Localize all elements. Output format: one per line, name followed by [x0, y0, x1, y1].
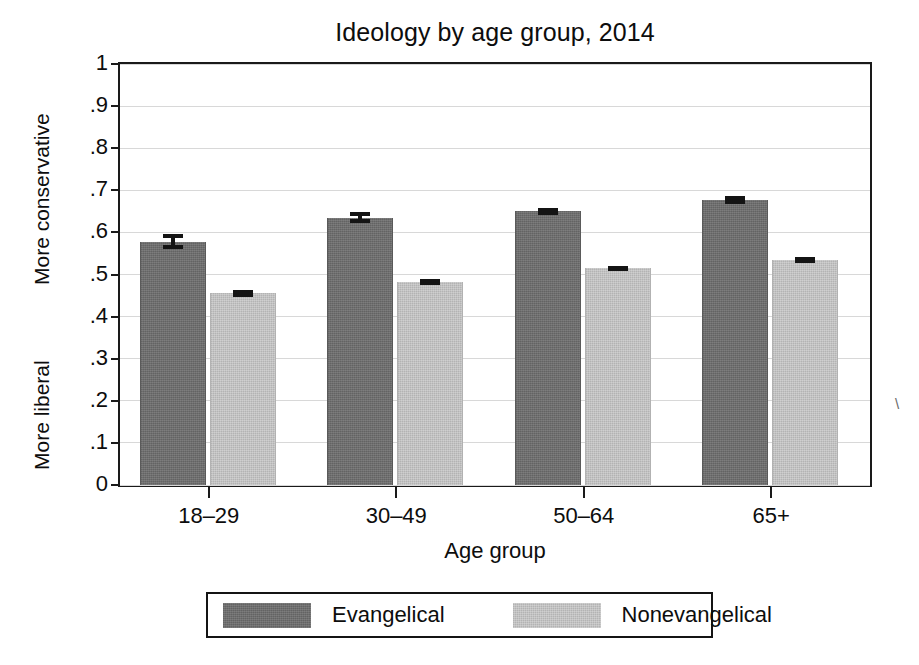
- y-axis-tick: [111, 400, 120, 402]
- legend-entry-nonevangelical[interactable]: Nonevangelical: [513, 594, 772, 636]
- error-bar-cap-bottom: [350, 219, 370, 223]
- y-axis-tick-label: .1: [68, 431, 108, 453]
- bar-evangelical-50-64: [515, 211, 581, 485]
- bar-evangelical-30-49: [327, 218, 393, 485]
- error-bar-cap-bottom: [163, 245, 183, 249]
- bar-evangelical-65+: [702, 200, 768, 485]
- y-axis-tick: [111, 231, 120, 233]
- gridline: [120, 190, 870, 191]
- y-axis-tick-label: .4: [68, 305, 108, 327]
- y-axis-caption-more-conservative: More conservative: [30, 113, 54, 285]
- y-axis-tick-label: 1: [68, 52, 108, 74]
- scan-artifact-mark: \: [895, 396, 901, 412]
- legend-swatch-nonevangelical-icon: [513, 603, 601, 628]
- y-axis-tick-label: .9: [68, 94, 108, 116]
- bar-nonevangelical-30-49: [397, 282, 463, 485]
- bar-evangelical-18-29: [140, 242, 206, 485]
- y-axis-caption-more-liberal: More liberal: [30, 360, 54, 470]
- x-axis-tick: [583, 487, 585, 498]
- error-bar: [772, 257, 838, 263]
- legend-label-evangelical: Evangelical: [332, 602, 445, 628]
- y-axis-tick: [111, 484, 120, 486]
- y-axis-tick-label: .3: [68, 347, 108, 369]
- bar-nonevangelical-18-29: [210, 293, 276, 485]
- x-axis-tick-label-18-29: 18–29: [129, 503, 289, 529]
- error-bar: [515, 208, 581, 216]
- error-bar: [327, 212, 393, 223]
- x-axis-tick: [208, 487, 210, 498]
- x-axis-tick-label-50-64: 50–64: [504, 503, 664, 529]
- error-bar: [585, 266, 651, 271]
- gridline: [120, 148, 870, 149]
- y-axis-tick: [111, 442, 120, 444]
- y-axis-tick-label: .5: [68, 263, 108, 285]
- legend-label-nonevangelical: Nonevangelical: [622, 602, 772, 628]
- y-axis-tick-label: .8: [68, 136, 108, 158]
- error-bar-cap-bottom: [233, 293, 253, 297]
- gridline: [120, 106, 870, 107]
- error-bar-cap-bottom: [725, 200, 745, 204]
- error-bar-cap-bottom: [538, 211, 558, 215]
- y-axis-tick-label: .2: [68, 389, 108, 411]
- error-bar-cap-bottom: [795, 259, 815, 263]
- y-axis-tick: [111, 63, 120, 65]
- y-axis-tick: [111, 274, 120, 276]
- error-bar: [397, 279, 463, 285]
- y-axis-tick: [111, 147, 120, 149]
- x-axis-tick-label-30-49: 30–49: [316, 503, 476, 529]
- error-bar-cap-bottom: [420, 281, 440, 285]
- legend-entry-evangelical[interactable]: Evangelical: [223, 594, 445, 636]
- x-axis-tick: [770, 487, 772, 498]
- chart-title: Ideology by age group, 2014: [118, 18, 872, 47]
- bar-nonevangelical-65+: [772, 260, 838, 485]
- error-bar: [210, 290, 276, 298]
- y-axis-tick: [111, 316, 120, 318]
- x-axis-title: Age group: [118, 538, 872, 564]
- y-axis-tick: [111, 189, 120, 191]
- y-axis-tick-label: 0: [68, 473, 108, 495]
- gridline: [120, 64, 870, 65]
- y-axis-tick-label: .7: [68, 178, 108, 200]
- error-bar: [140, 234, 206, 249]
- x-axis-tick-label-65+: 65+: [691, 503, 851, 529]
- figure-ideology-by-age-group: Ideology by age group, 2014 More conserv…: [0, 0, 919, 665]
- y-axis-tick: [111, 358, 120, 360]
- x-axis-tick: [395, 487, 397, 498]
- legend-swatch-evangelical-icon: [223, 603, 311, 628]
- y-axis-tick-labels: 0.1.2.3.4.5.6.7.8.91: [64, 64, 108, 485]
- plot-area: [120, 64, 870, 485]
- chart-legend: Evangelical Nonevangelical: [206, 592, 713, 638]
- y-axis-tick-label: .6: [68, 220, 108, 242]
- y-axis-tick: [111, 105, 120, 107]
- bar-nonevangelical-50-64: [585, 268, 651, 485]
- error-bar-cap-bottom: [608, 267, 628, 271]
- error-bar: [702, 196, 768, 204]
